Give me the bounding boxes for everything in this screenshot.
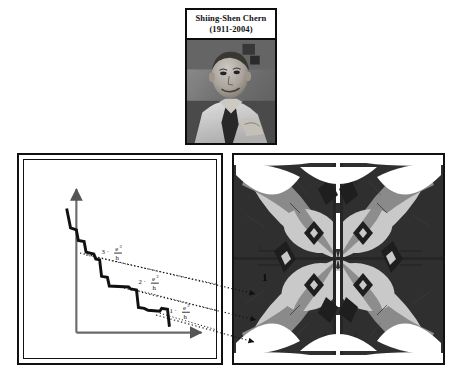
conductance-staircase-graphic: 3 · e 2 h 2 · e 2 h 1 · e 2 h bbox=[24, 160, 216, 358]
portrait-name: Shiing-Shen Chern bbox=[196, 13, 267, 24]
chern-label-1: 1 bbox=[262, 271, 268, 283]
portrait-caption: Shiing-Shen Chern (1911-2004) bbox=[187, 10, 275, 40]
staircase-curve bbox=[67, 208, 170, 326]
right-panel-hofstadter-butterfly: 1 2 bbox=[232, 153, 445, 365]
guide-line-3 bbox=[86, 255, 216, 284]
left-panel-conductance-plot: 3 · e 2 h 2 · e 2 h 1 · e 2 h bbox=[17, 153, 223, 365]
portrait-card: Shiing-Shen Chern (1911-2004) bbox=[185, 8, 277, 145]
svg-text:h: h bbox=[184, 313, 188, 320]
svg-text:1 ·: 1 · bbox=[169, 307, 176, 314]
svg-text:e: e bbox=[183, 304, 186, 311]
svg-text:e: e bbox=[152, 275, 155, 282]
svg-text:2 ·: 2 · bbox=[138, 278, 145, 285]
portrait-photo bbox=[187, 40, 275, 143]
butterfly-fractal-graphic: 1 2 bbox=[234, 155, 443, 363]
svg-text:3 ·: 3 · bbox=[102, 248, 109, 255]
plateau-label-3: 3 · e 2 h bbox=[102, 244, 123, 261]
plateau-label-2: 2 · e 2 h bbox=[138, 274, 159, 291]
svg-text:2: 2 bbox=[156, 274, 159, 279]
svg-text:e: e bbox=[115, 245, 118, 252]
svg-text:h: h bbox=[116, 254, 120, 261]
svg-text:h: h bbox=[152, 284, 156, 291]
svg-text:2: 2 bbox=[120, 244, 123, 249]
portrait-photo-graphic bbox=[187, 40, 275, 143]
chern-label-2: 2 bbox=[258, 243, 263, 253]
portrait-years: (1911-2004) bbox=[209, 24, 252, 35]
left-panel-inner-frame: 3 · e 2 h 2 · e 2 h 1 · e 2 h bbox=[23, 159, 217, 359]
